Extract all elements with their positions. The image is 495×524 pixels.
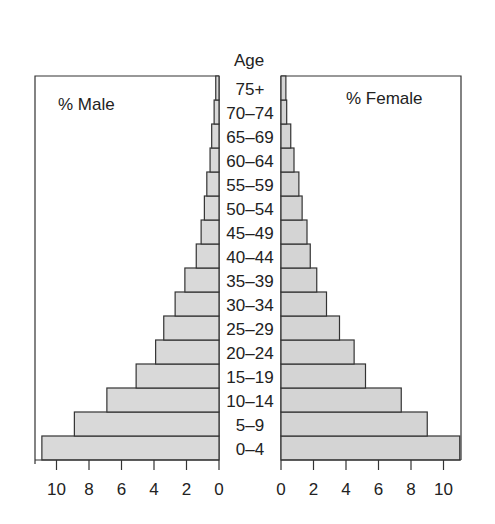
female-panel: [281, 76, 461, 460]
x-tick-label: 6: [117, 480, 126, 499]
male-bar: [136, 364, 219, 388]
female-bar: [281, 268, 317, 292]
female-bar: [281, 412, 427, 436]
female-bar: [281, 364, 366, 388]
male-panel: [35, 76, 219, 464]
male-bar: [42, 436, 219, 460]
male-bar: [156, 340, 219, 364]
age-group-label: 30–34: [226, 296, 273, 315]
male-bar: [107, 388, 219, 412]
age-group-label: 65–69: [226, 128, 273, 147]
female-bar: [281, 388, 401, 412]
male-bar: [164, 316, 219, 340]
x-tick-label: 0: [276, 480, 285, 499]
male-x-axis: 1086420: [35, 460, 224, 499]
female-bar: [281, 340, 354, 364]
female-panel-label: % Female: [346, 89, 423, 108]
age-group-label: 15–19: [226, 368, 273, 387]
male-bar: [204, 196, 219, 220]
age-group-label: 5–9: [236, 416, 264, 435]
male-bar: [175, 292, 219, 316]
age-group-label: 40–44: [226, 248, 273, 267]
age-group-label: 75+: [236, 80, 265, 99]
male-bar: [214, 100, 219, 124]
male-bar: [207, 172, 219, 196]
age-group-label: 60–64: [226, 152, 273, 171]
x-tick-label: 10: [434, 480, 453, 499]
male-bar: [196, 244, 219, 268]
female-bar: [281, 220, 307, 244]
female-bar: [281, 436, 460, 460]
age-group-label: 50–54: [226, 200, 273, 219]
female-bar: [281, 196, 302, 220]
female-bar: [281, 244, 310, 268]
age-group-labels: 0–45–910–1415–1920–2425–2930–3435–3940–4…: [226, 80, 273, 459]
female-bar: [281, 172, 299, 196]
female-bar: [281, 124, 291, 148]
x-tick-label: 2: [182, 480, 191, 499]
x-tick-label: 2: [309, 480, 318, 499]
male-bar: [74, 412, 219, 436]
x-tick-label: 4: [341, 480, 350, 499]
age-axis-title: Age: [234, 51, 264, 70]
female-bar: [281, 100, 287, 124]
age-group-label: 25–29: [226, 320, 273, 339]
x-tick-label: 8: [406, 480, 415, 499]
female-bar: [281, 316, 340, 340]
age-group-label: 0–4: [236, 440, 264, 459]
x-tick-label: 4: [149, 480, 158, 499]
male-bar: [212, 124, 219, 148]
age-group-label: 45–49: [226, 224, 273, 243]
female-bar: [281, 292, 327, 316]
female-bar: [281, 148, 294, 172]
male-bar: [216, 76, 219, 100]
age-group-label: 70–74: [226, 104, 273, 123]
x-tick-label: 8: [84, 480, 93, 499]
male-bar: [185, 268, 219, 292]
age-group-label: 55–59: [226, 176, 273, 195]
x-tick-label: 0: [214, 480, 223, 499]
male-bar: [201, 220, 219, 244]
age-group-label: 10–14: [226, 392, 273, 411]
age-group-label: 20–24: [226, 344, 273, 363]
population-pyramid-chart: Age 0–45–910–1415–1920–2425–2930–3435–39…: [0, 0, 495, 524]
x-tick-label: 10: [47, 480, 66, 499]
female-bar: [281, 76, 286, 100]
female-x-axis: 0246810: [276, 460, 461, 499]
male-bar: [210, 148, 219, 172]
x-tick-label: 6: [374, 480, 383, 499]
male-panel-label: % Male: [58, 95, 115, 114]
age-group-label: 35–39: [226, 272, 273, 291]
